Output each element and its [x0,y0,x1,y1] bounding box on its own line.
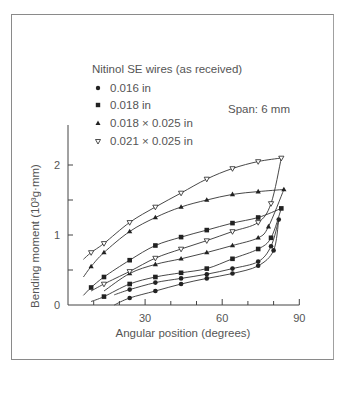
data-point-square [127,282,132,287]
data-point-circle [153,289,158,294]
data-point-triangle-down [127,221,132,226]
data-point-triangle-down [101,242,106,247]
legend-label-4: 0.021 × 0.025 in [110,135,193,147]
unloading-curve [91,208,281,301]
data-point-circle [230,271,235,276]
data-point-circle [230,266,235,271]
data-point-square [256,247,261,252]
data-point-circle [153,280,158,285]
y-tick-label: 1 [54,229,60,241]
data-point-circle [271,248,276,253]
y-tick-label: 0 [54,299,60,311]
data-point-square [89,285,94,290]
y-tick-label: 2 [54,159,60,171]
legend-circle-icon [96,86,100,90]
loading-curve [114,220,278,295]
legend-label-2: 0.018 in [110,99,151,111]
legend: 0.016 in 0.018 in 0.018 × 0.025 in 0.021… [96,82,193,147]
data-point-square [230,221,235,226]
legend-label-1: 0.016 in [110,82,151,94]
data-point-circle [204,272,209,277]
data-point-circle [179,276,184,281]
data-point-square [153,243,158,248]
data-point-circle [127,296,132,301]
data-point-circle [269,244,274,249]
data-point-triangle-up [281,187,286,192]
x-axis-label: Angular position (degrees) [116,327,251,339]
data-point-triangle-down [89,251,94,256]
data-point-square [179,271,184,276]
data-point-circle [256,264,261,269]
legend-label-3: 0.018 × 0.025 in [110,117,193,129]
span-annotation: Span: 6 mm [228,103,290,115]
legend-title: Nitinol SE wires (as received) [92,63,242,75]
data-point-circle [204,276,209,281]
data-point-square [102,294,107,299]
data-point-circle [127,287,132,292]
data-point-triangle-down [256,221,261,226]
data-point-triangle-up [266,224,271,229]
data-point-circle [179,282,184,287]
x-tick-label: 90 [293,312,305,324]
data-point-square [204,266,209,271]
data-point-triangle-up [127,229,132,234]
series-2 [83,206,283,301]
bending-moment-chart: Nitinol SE wires (as received) 0.016 in … [0,0,349,408]
tick-labels: 306090012 [54,159,306,324]
data-point-square [179,235,184,240]
data-point-triangle-down [153,205,158,210]
data-point-square [102,275,107,280]
data-point-square [127,258,132,263]
series-3 [83,187,286,291]
data-point-square [230,257,235,262]
data-series [83,156,286,305]
data-point-square [153,275,158,280]
legend-triangle-down-icon [96,140,101,145]
data-point-square [256,215,261,220]
data-point-square [204,228,209,233]
unloading-curve [91,158,281,291]
unloading-curve [104,190,284,292]
x-tick-label: 30 [139,312,151,324]
y-axis-label: Bending moment (10³g·mm) [29,164,41,308]
legend-square-icon [96,103,100,107]
legend-triangle-up-icon [96,121,101,126]
x-tick-label: 60 [216,312,228,324]
data-point-triangle-down [268,202,273,207]
data-point-square [269,236,274,241]
data-point-square [279,206,284,211]
data-point-circle [256,259,261,264]
series-1 [114,217,281,305]
